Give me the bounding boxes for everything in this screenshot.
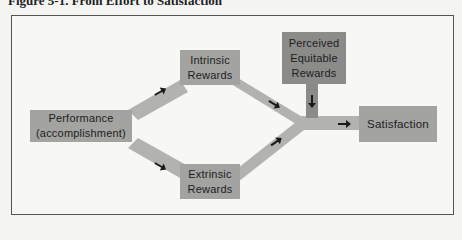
node-performance: Performance (accomplishment): [30, 110, 132, 142]
node-intrinsic-line2: Rewards: [188, 68, 233, 83]
connector-performance-intrinsic: [128, 80, 188, 120]
node-satisfaction-label: Satisfaction: [367, 117, 429, 132]
node-extrinsic-rewards: Extrinsic Rewards: [180, 164, 240, 199]
node-perceived-line2: Equitable: [290, 51, 338, 66]
node-intrinsic-line1: Intrinsic: [190, 53, 230, 68]
node-perceived-equitable-rewards: Perceived Equitable Rewards: [282, 32, 346, 84]
node-perceived-line1: Perceived: [289, 36, 340, 51]
node-satisfaction: Satisfaction: [359, 106, 437, 142]
node-performance-line1: Performance: [48, 111, 113, 126]
node-performance-line2: (accomplishment): [36, 126, 126, 141]
node-intrinsic-rewards: Intrinsic Rewards: [180, 50, 240, 85]
connector-junction-satisfaction: [295, 116, 360, 130]
node-extrinsic-line2: Rewards: [188, 182, 233, 197]
node-perceived-line3: Rewards: [292, 66, 337, 81]
node-extrinsic-line1: Extrinsic: [188, 167, 231, 182]
connector-performance-extrinsic: [128, 138, 188, 178]
